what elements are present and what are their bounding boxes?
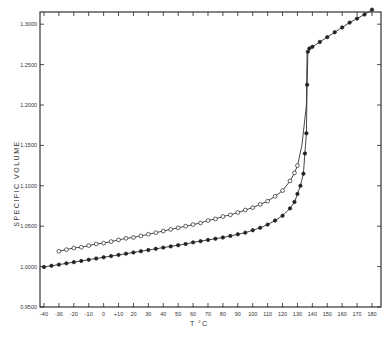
data-point [132,236,136,240]
x-tick-label: -30 [55,311,63,317]
x-tick-label: 180 [367,311,376,317]
data-point [117,253,120,256]
data-point [281,214,284,217]
data-point [79,245,83,249]
y-axis-label-text: SPECIFIC VOLUME [13,114,20,254]
data-point [273,194,277,198]
data-point [281,189,285,193]
data-point [102,241,106,245]
data-point [236,211,240,215]
data-point [132,251,135,254]
x-tick-label: 130 [293,311,302,317]
x-tick-label: 160 [338,311,347,317]
data-point [147,248,150,251]
data-point [94,257,97,260]
data-point [169,228,173,232]
data-point [72,246,76,250]
data-point [288,207,291,210]
data-point [191,223,195,227]
data-point [80,259,83,262]
data-point [139,234,143,238]
data-point [236,233,239,236]
data-point [296,164,300,168]
y-tick-label: 1.0000 [20,264,37,270]
data-point [64,248,68,252]
data-point [340,26,343,29]
data-point [303,152,306,155]
x-tick-label: 90 [235,311,241,317]
data-point [169,245,172,248]
data-point [305,83,308,86]
data-point [109,254,112,257]
x-axis-ticks: -40-30-20-100+10203040506070809010011012… [40,12,377,317]
data-point [311,45,314,48]
data-point [299,184,302,187]
data-point [221,215,225,219]
x-tick-label: 60 [190,311,196,317]
data-point [333,31,336,34]
data-point [288,179,292,183]
specific-volume-chart: -40-30-20-100+10203040506070809010011012… [0,0,392,338]
data-point [154,247,157,250]
data-point [124,236,128,240]
x-tick-label: 170 [352,311,361,317]
data-point [57,249,61,253]
x-axis-label: T °C [190,320,208,327]
data-point [50,264,53,267]
data-point [243,208,247,212]
data-point [184,224,188,228]
axes-frame [40,12,381,307]
data-point [355,17,358,20]
x-tick-label: -10 [85,311,93,317]
data-point [72,260,75,263]
data-point [87,244,91,248]
data-point [266,199,270,203]
y-tick-label: 1.3000 [20,21,37,27]
x-tick-label: 100 [248,311,257,317]
y-tick-label: 0.9500 [20,304,37,310]
data-point [326,35,329,38]
data-point [302,172,305,175]
y-tick-label: 1.0500 [20,223,37,229]
data-point [146,232,150,236]
x-tick-label: -40 [40,311,48,317]
data-point [293,171,297,175]
data-point [42,265,45,268]
data-point [206,219,210,223]
data-point [87,258,90,261]
x-tick-label: -20 [70,311,78,317]
data-point [273,219,276,222]
data-point [176,243,179,246]
y-tick-label: 1.1500 [20,142,37,148]
y-tick-label: 1.2000 [20,102,37,108]
x-tick-label: 150 [323,311,332,317]
x-tick-label: 50 [175,311,181,317]
data-point [251,206,255,210]
data-point [258,202,262,206]
y-axis-label: SPECIFIC VOLUME [6,120,20,260]
data-point [228,213,232,217]
data-point [293,200,296,203]
x-tick-label: 80 [220,311,226,317]
x-tick-label: 20 [130,311,136,317]
data-point [57,263,60,266]
data-point [363,13,366,16]
data-point [370,8,373,11]
data-point [109,240,113,244]
data-point [296,192,299,195]
data-point [199,221,203,225]
data-point [139,250,142,253]
x-tick-label: 0 [102,311,105,317]
data-point [244,231,247,234]
x-tick-label: 30 [145,311,151,317]
data-point [191,241,194,244]
x-tick-label: 110 [263,311,272,317]
data-point [199,239,202,242]
data-point [124,252,127,255]
data-point [306,50,309,53]
data-point [162,246,165,249]
x-tick-label: +10 [114,311,123,317]
data-point [214,217,218,221]
y-tick-label: 1.2500 [20,62,37,68]
data-point [65,262,68,265]
